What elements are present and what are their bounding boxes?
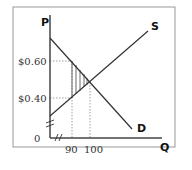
supply-label: S <box>151 20 159 33</box>
q-tick-100: 100 <box>84 144 103 155</box>
q-axis-label: Q <box>160 141 169 154</box>
price-low-label: $0.40 <box>18 93 47 104</box>
origin-label: 0 <box>34 133 40 144</box>
price-high-label: $0.60 <box>18 56 47 67</box>
supply-demand-chart: P S D Q $0.60 $0.40 0 90 100 <box>0 0 192 170</box>
p-axis-label: P <box>41 16 49 29</box>
q-tick-90: 90 <box>65 144 78 155</box>
demand-label: D <box>137 122 146 135</box>
